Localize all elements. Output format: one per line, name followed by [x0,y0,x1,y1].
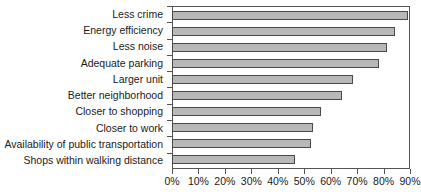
bar-row [173,104,409,120]
bar [172,123,313,132]
bar [172,91,342,100]
category-label-row: Closer to work [0,120,167,136]
x-tick-label: 80% [373,175,394,187]
x-tick-mark [410,169,411,174]
bar-row [173,71,409,87]
category-label-row: Closer to shopping [0,104,167,120]
category-label-row: Better neighborhood [0,87,167,103]
bar [172,11,408,20]
x-axis-tick-marks [172,169,410,174]
y-axis-category-labels: Less crimeEnergy efficiencyLess noiseAde… [0,6,167,169]
bar-row [173,136,409,152]
category-label-row: Shops within walking distance [0,153,167,169]
bar [172,59,379,68]
category-label: Better neighborhood [68,90,163,101]
bar [172,75,353,84]
category-label: Less crime [112,9,163,20]
bar-row [173,87,409,103]
bar-row [173,152,409,168]
x-tick-label: 90% [399,175,420,187]
x-tick-label: 50% [294,175,315,187]
category-label-row: Less noise [0,39,167,55]
x-tick-label: 30% [241,175,262,187]
category-label-row: Availability of public transportation [0,136,167,152]
x-tick-mark [304,169,305,174]
x-tick-label: 40% [267,175,288,187]
category-label: Energy efficiency [83,25,163,36]
x-tick-mark [198,169,199,174]
bar [172,139,311,148]
bar-row [173,55,409,71]
bar [172,27,395,36]
x-tick-mark [357,169,358,174]
x-tick-mark [384,169,385,174]
bar [172,155,295,164]
x-axis-tick-labels: 0%10%20%30%40%50%60%70%80%90% [172,175,410,189]
category-label: Availability of public transportation [4,139,163,150]
bar-row [173,120,409,136]
bar [172,107,321,116]
x-tick-mark [172,169,173,174]
category-label-row: Adequate parking [0,55,167,71]
x-tick-mark [278,169,279,174]
x-tick-mark [251,169,252,174]
x-tick-label: 10% [188,175,209,187]
bar [172,43,387,52]
category-label-row: Larger unit [0,71,167,87]
bars-layer [173,7,409,168]
category-label: Closer to work [96,123,163,134]
category-label: Closer to shopping [75,106,163,117]
category-label-row: Energy efficiency [0,22,167,38]
x-tick-mark [225,169,226,174]
category-label: Adequate parking [81,58,163,69]
x-tick-label: 0% [164,175,179,187]
x-tick-mark [331,169,332,174]
category-label: Less noise [113,41,163,52]
bar-row [173,7,409,23]
x-tick-label: 20% [214,175,235,187]
plot-area [172,6,410,169]
category-label-row: Less crime [0,6,167,22]
bar-row [173,23,409,39]
bar-row [173,39,409,55]
category-label: Larger unit [113,74,163,85]
x-tick-label: 70% [347,175,368,187]
x-tick-label: 60% [320,175,341,187]
category-label: Shops within walking distance [24,155,164,166]
